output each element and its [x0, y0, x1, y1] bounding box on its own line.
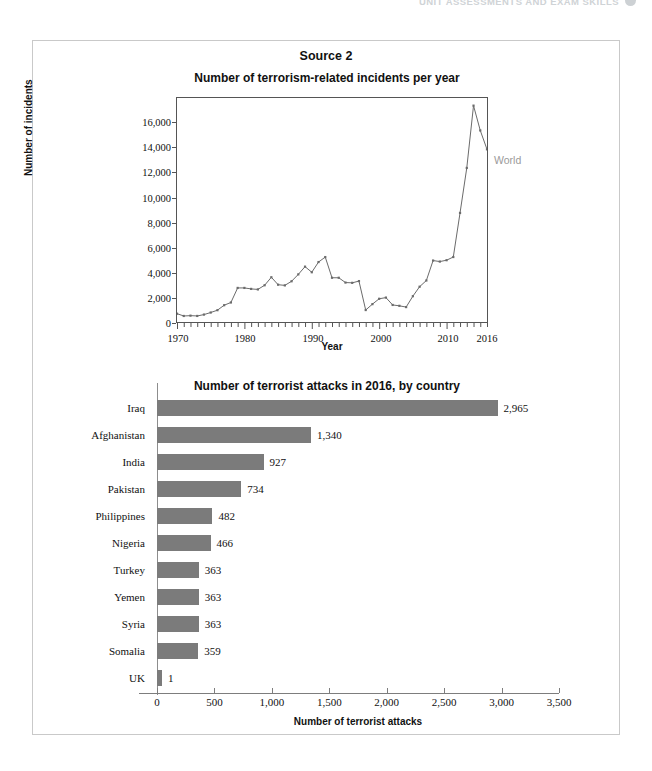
bar-x-tick-label: 3,500 — [547, 696, 572, 708]
line-y-tick-14000: 14,000 — [111, 142, 171, 153]
bar-chart-row: Nigeria466 — [33, 534, 621, 552]
bar-value-label: 359 — [204, 642, 221, 660]
bar-chart-row: Somalia359 — [33, 642, 621, 660]
bar-chart-row: Yemen363 — [33, 588, 621, 606]
line-y-tick-16000: 16,000 — [111, 117, 171, 128]
filled-circle-icon — [625, 0, 636, 6]
bar-x-tickmark — [329, 688, 330, 693]
bar-segment[interactable] — [157, 400, 498, 416]
bar-category-label: Iraq — [33, 399, 151, 417]
bar-chart-row: UK1 — [33, 669, 621, 687]
line-y-tick-0: 0 — [111, 318, 171, 329]
bar-category-label: Afghanistan — [33, 426, 151, 444]
bar-x-tick-label: 2,500 — [432, 696, 457, 708]
line-chart-y-axis-label: Number of incidents — [23, 79, 34, 176]
bar-x-tickmark — [272, 688, 273, 693]
bar-segment[interactable] — [157, 616, 199, 632]
bar-category-label: India — [33, 453, 151, 471]
bar-segment[interactable] — [157, 643, 198, 659]
bar-x-tick-label: 1,000 — [260, 696, 285, 708]
line-series-world — [177, 98, 487, 322]
bar-x-tickmark — [387, 688, 388, 693]
bar-x-tick-label: 500 — [206, 696, 223, 708]
line-series-label-world: World — [494, 154, 521, 166]
bar-category-label: Pakistan — [33, 480, 151, 498]
bar-category-label: UK — [33, 669, 151, 687]
bar-value-label: 927 — [270, 453, 287, 471]
bar-value-label: 1 — [168, 669, 174, 687]
bar-category-label: Somalia — [33, 642, 151, 660]
bar-chart-x-axis-label: Number of terrorist attacks — [157, 716, 559, 727]
bar-segment[interactable] — [157, 427, 311, 443]
bar-category-label: Turkey — [33, 561, 151, 579]
line-chart-plot-area — [176, 97, 488, 323]
bar-x-tickmark — [502, 688, 503, 693]
bar-value-label: 734 — [247, 480, 264, 498]
page-running-header: UNIT ASSESSMENTS AND EXAM SKILLS — [0, 0, 652, 20]
bar-category-label: Nigeria — [33, 534, 151, 552]
line-x-tickmarks — [176, 323, 506, 333]
bar-segment[interactable] — [157, 670, 162, 686]
line-chart-x-axis-label: Year — [176, 341, 488, 352]
bar-x-tick-label: 2,000 — [374, 696, 399, 708]
bar-value-label: 363 — [205, 588, 222, 606]
bar-x-tickmark — [214, 688, 215, 693]
bar-value-label: 466 — [217, 534, 234, 552]
bar-chart-row: Turkey363 — [33, 561, 621, 579]
bar-segment[interactable] — [157, 454, 264, 470]
bar-value-label: 363 — [205, 615, 222, 633]
running-header-text: UNIT ASSESSMENTS AND EXAM SKILLS — [419, 0, 619, 7]
bar-category-label: Yemen — [33, 588, 151, 606]
line-y-tick-10000: 10,000 — [111, 193, 171, 204]
bar-value-label: 1,340 — [317, 426, 342, 444]
bar-chart-row: Afghanistan1,340 — [33, 426, 621, 444]
bar-x-tick-label: 1,500 — [317, 696, 342, 708]
bar-value-label: 2,965 — [504, 399, 529, 417]
bar-segment[interactable] — [157, 508, 212, 524]
bar-segment[interactable] — [157, 562, 199, 578]
bar-segment[interactable] — [157, 535, 211, 551]
bar-x-tickmark — [444, 688, 445, 693]
bar-category-label: Philippines — [33, 507, 151, 525]
bar-chart-row: Iraq2,965 — [33, 399, 621, 417]
bar-category-label: Syria — [33, 615, 151, 633]
bar-segment[interactable] — [157, 589, 199, 605]
bar-chart: Number of terrorist attacks in 2016, by … — [33, 371, 621, 731]
bar-value-label: 482 — [218, 507, 235, 525]
line-chart: Number of terrorism-related incidents pe… — [33, 41, 621, 361]
line-y-tick-6000: 6,000 — [111, 243, 171, 254]
source-card: Source 2 Number of terrorism-related inc… — [32, 40, 620, 735]
line-y-tick-12000: 12,000 — [111, 167, 171, 178]
line-y-tick-4000: 4,000 — [111, 268, 171, 279]
bar-chart-row: Syria363 — [33, 615, 621, 633]
line-y-tick-2000: 2,000 — [111, 293, 171, 304]
bar-segment[interactable] — [157, 481, 241, 497]
line-chart-title: Number of terrorism-related incidents pe… — [33, 71, 621, 85]
bar-chart-value-axis — [139, 693, 559, 694]
bar-x-tickmark — [157, 688, 158, 693]
bar-chart-title: Number of terrorist attacks in 2016, by … — [33, 379, 621, 393]
bar-chart-row: India927 — [33, 453, 621, 471]
bar-x-tick-label: 0 — [154, 696, 160, 708]
bar-chart-row: Pakistan734 — [33, 480, 621, 498]
line-y-tick-8000: 8,000 — [111, 218, 171, 229]
bar-x-tickmark — [559, 688, 560, 693]
bar-chart-row: Philippines482 — [33, 507, 621, 525]
bar-value-label: 363 — [205, 561, 222, 579]
bar-x-tick-label: 3,000 — [489, 696, 514, 708]
